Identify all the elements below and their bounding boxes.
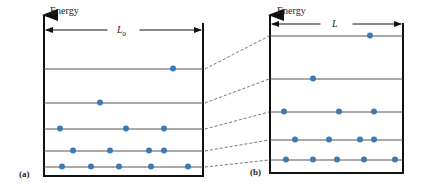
particle-dot [97,100,103,106]
panel-b-width-symbol: L [332,18,338,29]
particle-dot [59,164,65,170]
particle-dot [283,157,289,163]
particle-dot [292,137,298,143]
level-connector-dashed [205,160,269,167]
particle-dot [392,157,398,163]
panel-b-box [269,15,404,173]
particle-dot [88,164,94,170]
level-connector-dashed [205,112,269,129]
energy-level-diagram [0,0,428,185]
particle-dot [57,126,63,132]
particle-dot [123,126,129,132]
particle-dot [148,164,154,170]
particle-dot [116,164,122,170]
particle-dot [326,137,332,143]
particle-dot [107,148,113,154]
particle-dot [334,157,340,163]
particle-dot [310,76,316,82]
particle-dot [357,137,363,143]
particle-dot [336,109,342,115]
panel-a-width-subscript: 0 [123,30,127,38]
particle-dot [170,66,176,72]
panel-a-energy-label: Energy [50,6,79,16]
panel-b-width-label: L [329,18,341,29]
particle-dot [161,148,167,154]
particle-dot [161,126,167,132]
level-connector-dashed [205,79,269,103]
particle-dot [361,157,367,163]
particle-dot [371,109,377,115]
particle-dot [185,164,191,170]
panel-a-label: (a) [19,169,30,179]
panel-a-width-label: L0 [114,24,129,38]
particle-dot [70,148,76,154]
panel-b-label: (b) [250,167,261,177]
level-connector-dashed [205,36,269,69]
panel-a-box [43,15,204,176]
dashed-connectors [205,36,269,167]
particle-dot [281,109,287,115]
particle-dot [146,148,152,154]
panel-b-energy-label: Energy [277,6,306,16]
particle-dot [367,33,373,39]
particle-dot [310,157,316,163]
level-connector-dashed [205,140,269,151]
particle-dot [371,137,377,143]
